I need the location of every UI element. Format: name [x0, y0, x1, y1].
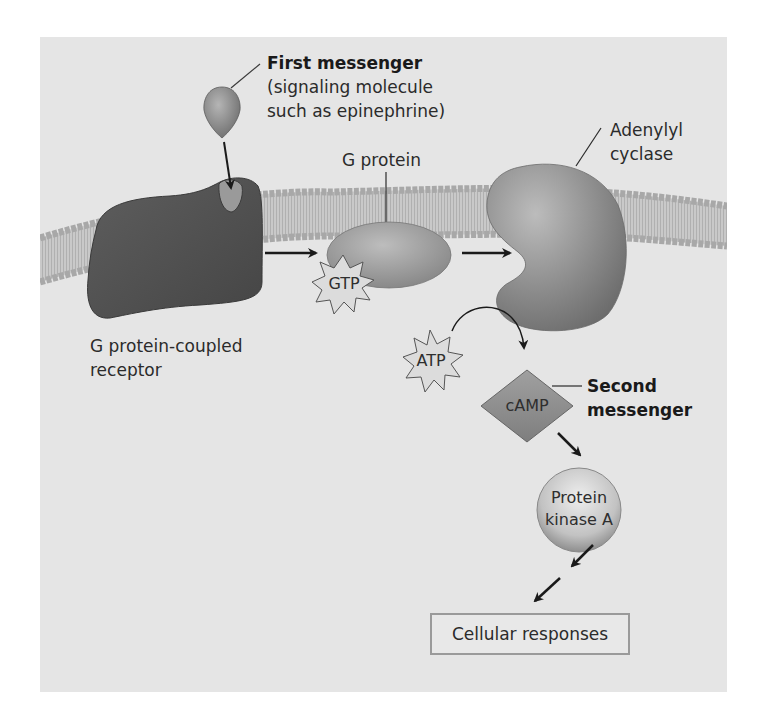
arrow-camp-to-kinase	[558, 433, 580, 455]
adenylyl-cyclase-line1: Adenylyl	[610, 118, 683, 142]
g-protein-label: G protein	[342, 148, 421, 172]
adenylyl-cyclase-line2: cyclase	[610, 142, 683, 166]
receptor-label: G protein-coupled receptor	[90, 334, 242, 382]
protein-kinase-a-label: Protein kinase A	[537, 487, 621, 531]
kinase-label-line1: Protein	[537, 487, 621, 509]
g-protein-coupled-receptor	[88, 178, 263, 318]
first-messenger-title: First messenger	[267, 51, 445, 75]
adenylyl-cyclase-label: Adenylyl cyclase	[610, 118, 683, 166]
second-messenger-label: Second messenger	[587, 374, 692, 422]
second-messenger-line2: messenger	[587, 398, 692, 422]
cellular-responses-box: Cellular responses	[430, 613, 630, 655]
gtp-label: GTP	[318, 274, 370, 293]
arrow-kinase-to-responses-2	[535, 578, 560, 601]
kinase-label-line2: kinase A	[537, 509, 621, 531]
receptor-label-line2: receptor	[90, 358, 242, 382]
first-messenger-desc-line2: such as epinephrine)	[267, 99, 445, 123]
first-messenger-molecule	[204, 64, 260, 188]
cellular-responses-label: Cellular responses	[452, 624, 608, 644]
first-messenger-label: First messenger (signaling molecule such…	[267, 51, 445, 123]
adenylyl-cyclase	[487, 128, 626, 331]
second-messenger-line1: Second	[587, 374, 692, 398]
atp-label: ATP	[407, 351, 455, 370]
receptor-label-line1: G protein-coupled	[90, 334, 242, 358]
first-messenger-desc-line1: (signaling molecule	[267, 75, 445, 99]
diagram-stage: First messenger (signaling molecule such…	[0, 0, 759, 710]
camp-label: cAMP	[491, 396, 563, 415]
